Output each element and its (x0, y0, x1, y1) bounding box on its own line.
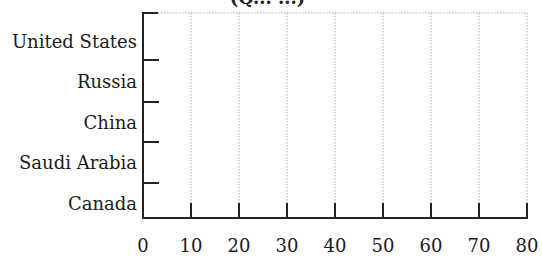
x-tick-label-80: 80 (507, 236, 542, 256)
x-axis-ticks (191, 203, 527, 218)
x-tick-label-40: 40 (315, 236, 355, 256)
y-label-saudi-arabia: Saudi Arabia (19, 153, 137, 173)
vertical-gridlines (191, 13, 527, 218)
y-label-china: China (84, 113, 137, 133)
x-tick-label-60: 60 (411, 236, 451, 256)
y-label-canada: Canada (68, 194, 137, 214)
x-tick-label-70: 70 (459, 236, 499, 256)
x-tick-label-30: 30 (267, 236, 307, 256)
y-label-united-states: United States (12, 32, 137, 52)
x-tick-label-10: 10 (171, 236, 211, 256)
y-label-russia: Russia (77, 72, 137, 92)
x-tick-label-50: 50 (363, 236, 403, 256)
x-tick-label-0: 0 (123, 236, 163, 256)
y-axis-ticks (143, 60, 159, 183)
x-tick-label-20: 20 (219, 236, 259, 256)
